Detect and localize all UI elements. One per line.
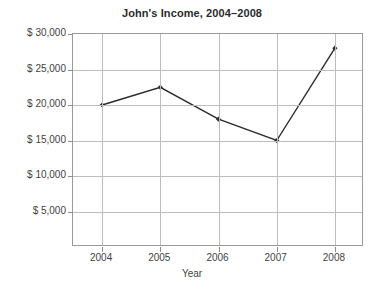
y-axis-tick	[68, 70, 73, 71]
gridline-vertical	[102, 34, 103, 245]
x-axis-title: Year	[0, 268, 384, 279]
gridline-horizontal	[73, 212, 362, 213]
y-axis-tick-label: $ 5,000	[0, 205, 66, 216]
y-axis-tick	[68, 105, 73, 106]
y-axis-tick	[68, 141, 73, 142]
y-axis-tick-label: $ 20,000	[0, 98, 66, 109]
y-axis-tick-label: $ 30,000	[0, 27, 66, 38]
x-axis-tick-label: 2006	[194, 252, 242, 263]
gridline-horizontal	[73, 176, 362, 177]
y-axis-tick-label: $ 25,000	[0, 63, 66, 74]
gridline-vertical	[160, 34, 161, 245]
x-axis-tick-label: 2004	[77, 252, 125, 263]
y-axis-tick	[68, 212, 73, 213]
x-axis-tick-label: 2005	[135, 252, 183, 263]
x-axis-tick-label: 2007	[252, 252, 300, 263]
gridline-vertical	[277, 34, 278, 245]
plot-area	[72, 33, 363, 246]
x-axis-tick-label: 2008	[310, 252, 358, 263]
chart-title: John's Income, 2004–2008	[0, 7, 384, 19]
gridline-vertical	[335, 34, 336, 245]
y-axis-tick	[68, 176, 73, 177]
gridline-horizontal	[73, 105, 362, 106]
gridline-horizontal	[73, 70, 362, 71]
gridline-horizontal	[73, 141, 362, 142]
y-axis-tick-label: $ 15,000	[0, 134, 66, 145]
y-axis-tick-label: $ 10,000	[0, 169, 66, 180]
income-line-chart: John's Income, 2004–2008 $ 5,000$ 10,000…	[0, 0, 384, 289]
y-axis-tick	[68, 34, 73, 35]
gridline-vertical	[219, 34, 220, 245]
